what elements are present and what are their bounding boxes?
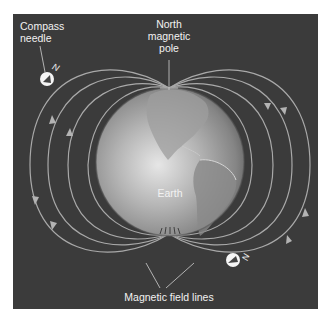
magnetic-field-lines-label: Magnetic field lines	[109, 291, 229, 303]
svg-text:N: N	[51, 62, 62, 74]
magnetic-field-diagram: N N	[13, 14, 318, 309]
earth-globe	[96, 88, 244, 236]
svg-text:N: N	[240, 252, 252, 262]
north-magnetic-pole-label: North magnetic pole	[141, 18, 197, 54]
earth-label: Earth	[145, 187, 195, 199]
compass-needle-bottom: N	[226, 252, 252, 267]
compass-needle-label: Compass needle	[20, 20, 64, 44]
compass-needle-top: N	[40, 62, 61, 86]
diagram-frame: N N Compass needle North magnetic pole E…	[13, 14, 318, 309]
